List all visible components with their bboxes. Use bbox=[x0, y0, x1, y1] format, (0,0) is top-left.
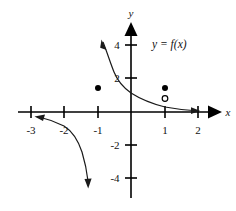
y-tick-label-neg4: -4 bbox=[110, 172, 120, 184]
closed-point-right bbox=[162, 85, 168, 91]
right-branch-curve bbox=[103, 42, 193, 111]
x-axis-label: x bbox=[225, 106, 231, 118]
left-branch-left-arrow-icon bbox=[35, 115, 46, 122]
open-point-right bbox=[162, 96, 168, 102]
y-tick-label-neg2: -2 bbox=[110, 139, 119, 151]
x-tick-label-neg3: -3 bbox=[26, 124, 36, 136]
x-tick-label-2: 2 bbox=[195, 124, 201, 136]
x-tick-label-1: 1 bbox=[162, 124, 168, 136]
y-axis-arrow-icon bbox=[125, 22, 138, 36]
left-branch-down-arrow-icon bbox=[85, 179, 92, 189]
x-tick-label-neg1: -1 bbox=[93, 124, 102, 136]
y-axis-label: y bbox=[128, 7, 134, 19]
graph-figure: -3 -2 -1 1 2 4 2 -2 -4 x y y = f(x) bbox=[0, 0, 236, 211]
right-branch-up-arrow-icon bbox=[100, 40, 106, 51]
x-axis-arrow-icon bbox=[208, 106, 222, 119]
closed-point-left bbox=[95, 85, 101, 91]
function-label: y = f(x) bbox=[151, 38, 187, 51]
coordinate-plane: -3 -2 -1 1 2 4 2 -2 -4 x y y = f(x) bbox=[0, 0, 236, 211]
y-tick-label-4: 4 bbox=[114, 39, 120, 51]
